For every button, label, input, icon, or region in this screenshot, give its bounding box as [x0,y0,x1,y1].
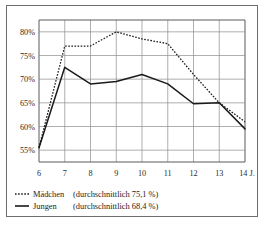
y-axis-tick-label: 80% [20,28,35,37]
line-chart-figure: 80%75%70%65%60%55%67891011121314 J.Mädch… [7,6,257,216]
y-axis-tick-label: 60% [20,123,35,132]
figure-border: 80%75%70%65%60%55%67891011121314 J.Mädch… [6,5,258,217]
x-axis-tick-label: 7 [63,169,67,178]
legend-label-jungen[interactable]: Jungen [33,202,58,211]
chart-canvas: 80%75%70%65%60%55%67891011121314 J.Mädch… [7,6,259,218]
x-axis-tick-label: 14 J. [239,169,254,178]
x-axis-tick-label: 10 [138,169,146,178]
x-axis-tick-label: 12 [189,169,197,178]
x-axis-tick-label: 8 [88,169,92,178]
legend-average-jungen: (durchschnittlich 68,4 %) [73,202,159,211]
x-axis-tick-label: 9 [114,169,118,178]
y-axis-tick-label: 65% [20,99,35,108]
legend-average-maedchen: (durchschnittlich 75,1 %) [73,190,159,199]
x-axis-tick-label: 11 [164,169,172,178]
x-axis-tick-label: 13 [215,169,223,178]
legend-label-maedchen[interactable]: Mädchen [33,190,65,199]
y-axis-tick-label: 75% [20,52,35,61]
y-axis-tick-label: 55% [20,146,35,155]
x-axis-tick-label: 6 [37,169,41,178]
y-axis-tick-label: 70% [20,75,35,84]
